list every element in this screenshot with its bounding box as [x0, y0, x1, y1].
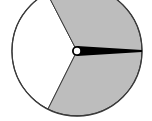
- spinner-sectors: [12, 0, 142, 116]
- pointer-hub-center: [74, 48, 80, 54]
- spinner-diagram: [0, 0, 152, 121]
